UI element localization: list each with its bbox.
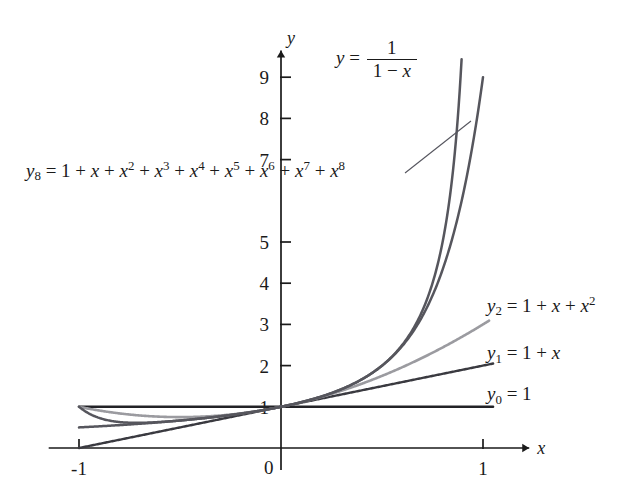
leader-line bbox=[405, 121, 471, 173]
y8-term-8: x bbox=[330, 160, 338, 181]
y-axis-tick-labels: 12345789 bbox=[260, 67, 270, 418]
y0-subscript: 0 bbox=[495, 392, 501, 407]
y0-term-0: 1 bbox=[522, 383, 532, 404]
y8-term-4: x bbox=[190, 160, 198, 181]
y2-equals: = bbox=[507, 295, 518, 316]
y2-term-1: x bbox=[552, 295, 560, 316]
y1-equals: = bbox=[507, 342, 518, 363]
y8-plus-7: + bbox=[280, 160, 291, 181]
y2-plus-2: + bbox=[565, 295, 576, 316]
y8-plus-3: + bbox=[139, 160, 150, 181]
closed-form-lhs: y bbox=[336, 47, 344, 68]
y8-exp-8: 8 bbox=[339, 158, 345, 173]
annotation-y1-series: y1 = 1 + x bbox=[487, 343, 560, 366]
y8-exp-7: 7 bbox=[303, 158, 309, 173]
x-tick-label: 1 bbox=[478, 458, 488, 479]
y8-term-1: x bbox=[91, 160, 99, 181]
y8-term-5: x bbox=[225, 160, 233, 181]
curve bbox=[79, 321, 489, 417]
fraction-numerator: 1 bbox=[367, 38, 417, 59]
y8-exp-3: 3 bbox=[163, 158, 169, 173]
y8-plus-8: + bbox=[315, 160, 326, 181]
y1-subscript: 1 bbox=[495, 351, 501, 366]
y-tick-label: 5 bbox=[260, 232, 270, 253]
y1-term-0: 1 bbox=[522, 342, 532, 363]
denominator-x: x bbox=[402, 60, 410, 81]
x-axis-label: x bbox=[536, 438, 545, 458]
closed-form-equals: = bbox=[349, 47, 360, 68]
y8-plus-6: + bbox=[244, 160, 255, 181]
denominator-one: 1 bbox=[373, 60, 383, 81]
y-tick-label: 8 bbox=[260, 108, 270, 129]
y8-term-2: x bbox=[119, 160, 127, 181]
x-axis-tick-labels: -101 bbox=[71, 457, 488, 479]
fraction-denominator: 1 − x bbox=[367, 59, 417, 82]
y8-subscript: 8 bbox=[34, 168, 40, 183]
y8-term-3: x bbox=[155, 160, 163, 181]
y2-subscript: 2 bbox=[495, 303, 501, 318]
x-axis-arrow bbox=[522, 444, 529, 452]
y1-term-1: x bbox=[552, 342, 560, 363]
annotation-closed-form: y = 1 1 − x bbox=[336, 38, 419, 81]
y8-plus-5: + bbox=[209, 160, 220, 181]
x-tick-label: -1 bbox=[71, 458, 87, 479]
y-tick-label: 4 bbox=[260, 273, 270, 294]
y-tick-label: 9 bbox=[260, 67, 270, 88]
y8-equals: = bbox=[46, 160, 57, 181]
y8-exp-4: 4 bbox=[198, 158, 204, 173]
fraction: 1 1 − x bbox=[367, 38, 417, 81]
annotation-y0-series: y0 = 1 bbox=[487, 384, 532, 407]
y2-plus-1: + bbox=[536, 295, 547, 316]
figure-container: -101 12345789 x y y = 1 1 − x y8 = 1 + x… bbox=[0, 0, 640, 490]
y0-equals: = bbox=[507, 383, 518, 404]
axes-group: -101 12345789 x y bbox=[49, 28, 546, 479]
y8-exp-2: 2 bbox=[128, 158, 134, 173]
y8-plus-4: + bbox=[174, 160, 185, 181]
y1-plus-1: + bbox=[536, 342, 547, 363]
y2-term-2: x bbox=[580, 295, 588, 316]
y-axis-label: y bbox=[285, 28, 295, 48]
y-tick-label: 3 bbox=[260, 314, 270, 335]
y8-exp-5: 5 bbox=[233, 158, 239, 173]
annotation-y8-series: y8 = 1 + x + x2 + x3 + x4 + x5 + x6 + x7… bbox=[26, 160, 345, 183]
y8-plus-1: + bbox=[75, 160, 86, 181]
annotation-y2-series: y2 = 1 + x + x2 bbox=[487, 295, 595, 318]
curve bbox=[79, 59, 462, 427]
y2-term-0: 1 bbox=[522, 295, 532, 316]
y8-exp-6: 6 bbox=[268, 158, 274, 173]
function-plot: -101 12345789 x y bbox=[0, 0, 640, 490]
y8-term-0: 1 bbox=[61, 160, 71, 181]
y-tick-label: 2 bbox=[260, 356, 270, 377]
y8-plus-2: + bbox=[104, 160, 115, 181]
denominator-minus: − bbox=[387, 60, 398, 81]
y2-exp-2: 2 bbox=[589, 293, 595, 308]
y-axis-arrow bbox=[277, 50, 285, 57]
x-tick-label: 0 bbox=[264, 457, 274, 478]
